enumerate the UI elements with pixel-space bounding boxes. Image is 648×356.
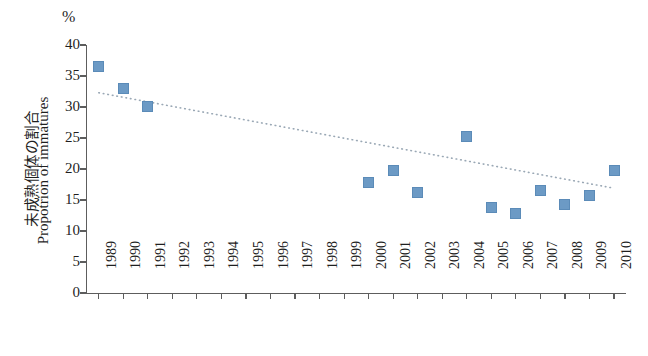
y-axis-tick-label: 20 <box>54 161 80 176</box>
y-axis-tick <box>80 137 86 138</box>
y-axis-tick <box>80 75 86 76</box>
y-axis-tick-label: 30 <box>54 99 80 114</box>
x-axis-tick-label: 2000 <box>374 241 390 301</box>
x-axis-tick-label: 1989 <box>104 241 120 301</box>
x-axis-tick-label: 2002 <box>423 241 439 301</box>
data-point-marker <box>584 190 595 201</box>
x-axis-tick-label: 2006 <box>521 241 537 301</box>
data-point-marker <box>93 61 104 72</box>
y-axis-tick-label: 25 <box>54 130 80 145</box>
x-axis-tick-label: 1997 <box>300 241 316 301</box>
data-point-marker <box>388 165 399 176</box>
y-axis-tick <box>80 261 86 262</box>
y-axis-line <box>86 45 87 293</box>
data-point-marker <box>510 208 521 219</box>
chart-figure: 未成熟個体の割合 Propotrion of immatures % 05101… <box>0 0 648 356</box>
data-point-marker <box>142 101 153 112</box>
x-axis-tick-label: 1990 <box>128 241 144 301</box>
y-axis-tick <box>80 230 86 231</box>
y-axis-tick-labels: 0510152025303540 <box>52 0 80 356</box>
x-axis-tick-label: 1992 <box>177 241 193 301</box>
data-point-marker <box>118 83 129 94</box>
y-axis-tick <box>80 168 86 169</box>
x-axis-tick-label: 1995 <box>251 241 267 301</box>
x-axis-tick-label: 2009 <box>594 241 610 301</box>
x-axis-tick-label: 2008 <box>570 241 586 301</box>
y-axis-title-english: Propotrion of immatures <box>35 71 52 271</box>
data-point-marker <box>486 202 497 213</box>
x-axis-tick-label: 1994 <box>226 241 242 301</box>
x-axis-tick-label: 2010 <box>619 241 635 301</box>
x-axis-tick-label: 2001 <box>398 241 414 301</box>
data-point-marker <box>412 187 423 198</box>
x-axis-tick-label: 2005 <box>496 241 512 301</box>
y-axis-tick-label: 5 <box>54 254 80 269</box>
y-axis-tick <box>80 44 86 45</box>
y-axis-tick <box>80 199 86 200</box>
x-axis-tick-label: 1991 <box>153 241 169 301</box>
data-point-marker <box>535 185 546 196</box>
x-axis-tick-label: 2007 <box>545 241 561 301</box>
x-axis-tick-label: 1996 <box>276 241 292 301</box>
data-point-marker <box>609 165 620 176</box>
y-axis-tick-label: 10 <box>54 223 80 238</box>
x-axis-tick-label: 1998 <box>325 241 341 301</box>
y-axis-tick-label: 15 <box>54 192 80 207</box>
y-axis-tick-label: 40 <box>54 37 80 52</box>
data-point-marker <box>559 199 570 210</box>
data-point-marker <box>363 177 374 188</box>
y-axis-tick-label: 0 <box>54 285 80 300</box>
x-axis-tick-label: 2004 <box>472 241 488 301</box>
x-axis-tick-label: 2003 <box>447 241 463 301</box>
data-point-marker <box>461 131 472 142</box>
y-axis-tick <box>80 106 86 107</box>
y-axis-tick-label: 35 <box>54 68 80 83</box>
x-axis-tick-label: 1993 <box>202 241 218 301</box>
x-axis-tick-label: 1999 <box>349 241 365 301</box>
x-axis-tick-labels: 1989199019911992199319941995199619971998… <box>86 293 626 356</box>
